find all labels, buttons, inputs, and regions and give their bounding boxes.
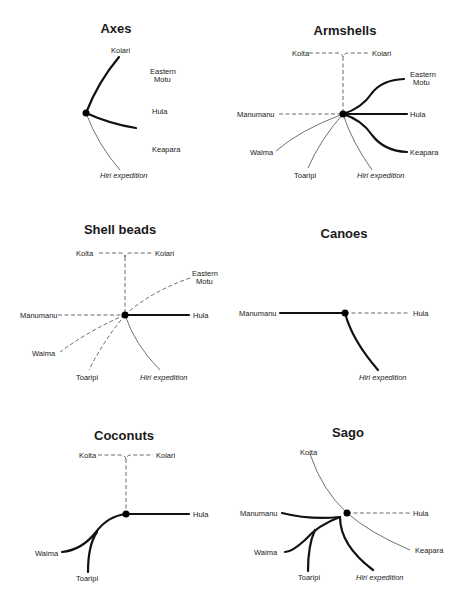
link-waima: [62, 514, 126, 552]
label-hiri-expedition: Hiri expedition: [140, 373, 188, 382]
label-keapara: Keapara: [410, 148, 439, 157]
label-koiari: Koiari: [155, 249, 175, 258]
label-manumanu: Manumanu: [237, 110, 275, 119]
label-toaripi: Toaripi: [76, 373, 98, 382]
label-toaripi: Toaripi: [76, 574, 98, 583]
label-manumanu: Manumanu: [239, 309, 277, 318]
label-hiri-expedition: Hiri expedition: [357, 171, 405, 180]
label-hula: Hula: [413, 509, 429, 518]
label-koita: Koita: [79, 451, 97, 460]
label-hula: Hula: [413, 309, 429, 318]
label-waima: Waima: [254, 548, 278, 557]
panel-shell-beads: Shell beads Koita Koiari Eastern Motu Ma…: [20, 222, 218, 382]
label-koiari: Koiari: [372, 49, 392, 58]
label-toaripi: Toaripi: [294, 171, 316, 180]
label-hula: Hula: [193, 311, 209, 320]
label-keapara: Keapara: [152, 145, 181, 154]
link-hiri: [343, 114, 372, 170]
hub-node: [340, 111, 347, 118]
link-hiri: [125, 315, 160, 370]
link-eastern-motu: [343, 79, 404, 114]
label-waima: Waima: [35, 549, 59, 558]
label-hiri-expedition: Hiri expedition: [356, 573, 404, 582]
panel-title: Axes: [100, 21, 131, 36]
hub-node: [342, 310, 349, 317]
label-koiari: Koiari: [111, 46, 131, 55]
link-koiari: [86, 57, 119, 113]
label-hiri-expedition: Hiri expedition: [100, 171, 148, 180]
label-hula: Hula: [152, 107, 168, 116]
label-motu: Motu: [196, 277, 213, 286]
link-waima: [276, 114, 343, 151]
panel-title: Shell beads: [84, 222, 156, 237]
link-waima: [60, 315, 125, 352]
link-hiri: [86, 113, 120, 170]
panel-sago: Sago Koita Manumanu Hula Waima Keapara T…: [240, 425, 444, 582]
label-koiari: Koiari: [156, 451, 176, 460]
link-hiri: [340, 517, 373, 570]
hub-node: [344, 510, 351, 517]
hub-node: [122, 312, 129, 319]
panel-title: Canoes: [321, 226, 368, 241]
link-toaripi: [308, 114, 343, 168]
label-hiri-expedition: Hiri expedition: [359, 373, 407, 382]
link-manumanu: [282, 513, 340, 518]
link-keapara: [343, 114, 407, 152]
link-koita-koiari: [99, 253, 153, 257]
label-manumanu: Manumanu: [240, 509, 278, 518]
link-koita-keapara: [310, 454, 410, 550]
label-koita: Koita: [292, 49, 310, 58]
label-hula: Hula: [410, 110, 426, 119]
label-keapara: Keapara: [415, 546, 444, 555]
hub-node: [83, 110, 90, 117]
link-eastern-motu: [125, 278, 190, 315]
label-toaripi: Toaripi: [298, 573, 320, 582]
label-koita: Koita: [300, 448, 318, 457]
panel-axes: Axes Koiari Eastern Motu Hula Keapara Hi…: [83, 21, 182, 180]
label-motu: Motu: [413, 78, 430, 87]
panel-coconuts: Coconuts Koita Koiari Hula Waima Toaripi: [35, 428, 209, 583]
label-waima: Waima: [32, 349, 56, 358]
link-hiri: [345, 313, 378, 370]
label-waima: Waima: [250, 148, 274, 157]
link-hula: [86, 113, 136, 128]
link-koita-koiari: [309, 53, 370, 57]
panel-title: Armshells: [314, 23, 377, 38]
panel-title: Sago: [332, 425, 364, 440]
panel-armshells: Armshells Koita Koiari Eastern Motu Manu…: [237, 23, 439, 180]
link-koita-koiari: [98, 455, 153, 459]
label-hula: Hula: [193, 510, 209, 519]
panel-canoes: Canoes Manumanu Hula Hiri expedition: [239, 226, 429, 382]
label-koita: Koita: [76, 249, 94, 258]
label-manumanu: Manumanu: [20, 311, 58, 320]
panel-title: Coconuts: [94, 428, 154, 443]
hub-node: [123, 511, 130, 518]
exchange-diagrams: Axes Koiari Eastern Motu Hula Keapara Hi…: [0, 0, 453, 605]
label-motu: Motu: [154, 75, 171, 84]
